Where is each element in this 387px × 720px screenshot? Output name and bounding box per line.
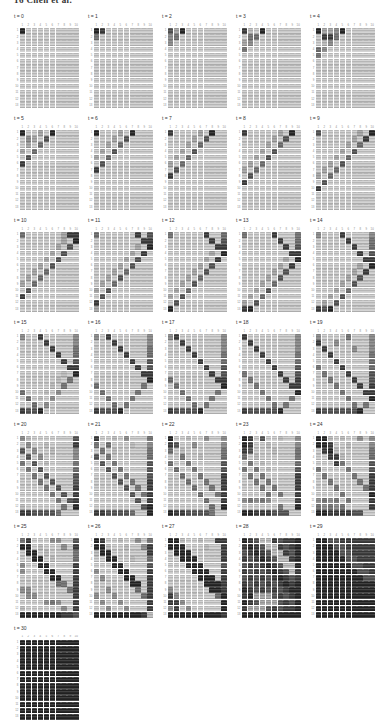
heatmap-cell — [221, 47, 226, 53]
heatmap-cell — [352, 498, 357, 504]
heatmap-cell — [248, 538, 253, 544]
row-label: 6 — [14, 569, 19, 575]
heatmap-cell — [26, 569, 31, 575]
row-label: 7 — [162, 65, 167, 71]
heatmap-cell — [94, 544, 99, 550]
heatmap-cell — [260, 402, 265, 408]
heatmap-cell — [73, 402, 78, 408]
row-label: 12 — [310, 606, 315, 612]
heatmap-cell — [112, 180, 117, 186]
heatmap-cell — [26, 664, 31, 670]
heatmap-cell — [352, 352, 357, 358]
heatmap-cell — [322, 556, 327, 562]
heatmap-cell — [352, 84, 357, 90]
heatmap-cell — [186, 78, 191, 84]
heatmap-cell — [346, 167, 351, 173]
heatmap-cell — [215, 365, 220, 371]
row-label: 8 — [162, 71, 167, 77]
heatmap-cell — [328, 149, 333, 155]
heatmap-cell — [346, 448, 351, 454]
heatmap-cell — [242, 192, 247, 198]
heatmap-cell — [272, 28, 277, 34]
heatmap-cell — [363, 71, 368, 77]
heatmap-cell — [369, 59, 374, 65]
heatmap-cell — [26, 550, 31, 556]
heatmap-cell — [215, 84, 220, 90]
heatmap-cell — [130, 204, 135, 210]
heatmap-cell — [254, 59, 259, 65]
heatmap-cell — [168, 556, 173, 562]
heatmap-cell — [135, 204, 140, 210]
heatmap-cell — [283, 377, 288, 383]
heatmap-cell — [130, 510, 135, 516]
heatmap-cell — [272, 47, 277, 53]
heatmap-cell — [50, 544, 55, 550]
heatmap-cell — [135, 28, 140, 34]
col-label: 3 — [254, 533, 259, 538]
col-label: 8 — [209, 23, 214, 28]
heatmap-cell — [198, 288, 203, 294]
row-label: 3 — [310, 244, 315, 250]
heatmap-cell — [363, 192, 368, 198]
heatmap-cell — [67, 377, 72, 383]
heatmap-title: t = 14 — [310, 217, 376, 223]
heatmap-cell — [266, 142, 271, 148]
heatmap-cell — [130, 161, 135, 167]
heatmap-cell — [278, 180, 283, 186]
heatmap-cell — [50, 251, 55, 257]
heatmap-cell — [50, 396, 55, 402]
heatmap-cell — [56, 461, 61, 467]
heatmap-cell — [141, 142, 146, 148]
heatmap-cell — [73, 47, 78, 53]
col-label: 10 — [147, 23, 152, 28]
heatmap-cell — [198, 504, 203, 510]
heatmap-cell — [73, 142, 78, 148]
heatmap-cell — [316, 479, 321, 485]
heatmap-cell — [289, 352, 294, 358]
col-label: 4 — [260, 125, 265, 130]
col-label: 6 — [198, 329, 203, 334]
heatmap-cell — [130, 498, 135, 504]
heatmap-cell — [352, 275, 357, 281]
heatmap-cell — [124, 244, 129, 250]
col-label: 10 — [73, 329, 78, 334]
heatmap-cell — [369, 294, 374, 300]
heatmap-grid: 1234567891012345678910111213 — [88, 227, 154, 312]
heatmap-cell — [192, 244, 197, 250]
heatmap-cell — [56, 257, 61, 263]
heatmap-cell — [334, 300, 339, 306]
col-label: 7 — [352, 431, 357, 436]
heatmap-cell — [186, 538, 191, 544]
heatmap-cell — [322, 402, 327, 408]
heatmap-cell — [242, 550, 247, 556]
heatmap-cell — [67, 173, 72, 179]
heatmap-cell — [100, 504, 105, 510]
heatmap-cell — [283, 204, 288, 210]
grid-corner — [162, 23, 167, 28]
heatmap-cell — [180, 251, 185, 257]
heatmap-cell — [44, 269, 49, 275]
heatmap-cell — [322, 575, 327, 581]
col-label: 5 — [192, 533, 197, 538]
heatmap-cell — [112, 436, 117, 442]
heatmap-cell — [26, 186, 31, 192]
row-label: 9 — [236, 587, 241, 593]
heatmap-cell — [198, 396, 203, 402]
heatmap-cell — [215, 294, 220, 300]
heatmap-cell — [316, 587, 321, 593]
heatmap-cell — [141, 510, 146, 516]
col-label: 9 — [67, 431, 72, 436]
heatmap-cell — [20, 708, 25, 714]
heatmap-cell — [346, 90, 351, 96]
col-label: 4 — [112, 227, 117, 232]
heatmap-cell — [118, 563, 123, 569]
heatmap-cell — [346, 556, 351, 562]
col-label: 6 — [198, 125, 203, 130]
col-label: 5 — [118, 227, 123, 232]
col-label: 3 — [328, 533, 333, 538]
col-label: 8 — [209, 533, 214, 538]
heatmap-cell — [192, 28, 197, 34]
heatmap-cell — [147, 90, 152, 96]
heatmap-cell — [38, 96, 43, 102]
heatmap-cell — [346, 102, 351, 108]
